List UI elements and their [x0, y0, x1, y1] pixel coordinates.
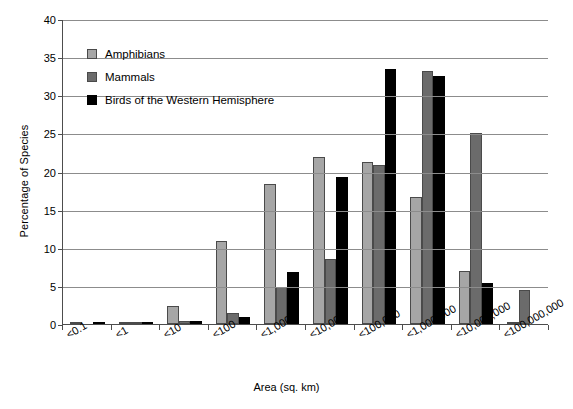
legend-swatch-icon [87, 95, 97, 105]
bar [362, 162, 374, 324]
bar [93, 322, 105, 324]
bar [142, 322, 154, 324]
y-axis-title: Percentage of Species [18, 71, 30, 291]
bar [130, 322, 142, 324]
legend-label: Birds of the Western Hemisphere [105, 94, 274, 106]
y-tick-label: 25 [6, 129, 56, 140]
x-tick-mark [548, 325, 549, 330]
legend-swatch-icon [87, 72, 97, 82]
y-tick-mark [58, 249, 62, 250]
y-tick-mark [58, 287, 62, 288]
bar [336, 177, 348, 324]
bar [190, 321, 202, 324]
x-axis-title: Area (sq. km) [0, 381, 573, 393]
x-tick-label: <1 [113, 324, 130, 341]
y-tick-label: 0 [6, 320, 56, 331]
gridline [63, 20, 548, 21]
gridline [63, 249, 548, 250]
y-tick-label: 30 [6, 91, 56, 102]
bar [313, 157, 325, 324]
y-tick-mark [58, 211, 62, 212]
bar [216, 241, 228, 324]
gridline [63, 287, 548, 288]
legend-swatch-icon [87, 49, 97, 59]
y-tick-label: 35 [6, 53, 56, 64]
y-tick-label: 10 [6, 244, 56, 255]
y-tick-mark [58, 58, 62, 59]
y-tick-label: 15 [6, 206, 56, 217]
bar [385, 69, 397, 324]
bar [459, 271, 471, 324]
x-tick-mark [111, 325, 112, 330]
bar [239, 317, 251, 324]
bar [373, 165, 385, 324]
bar [470, 133, 482, 324]
y-tick-mark [58, 96, 62, 97]
legend-label: Mammals [105, 71, 155, 83]
legend-item: Birds of the Western Hemisphere [87, 90, 274, 110]
x-tick-mark [354, 325, 355, 330]
y-tick-label: 20 [6, 168, 56, 179]
legend-item: Mammals [87, 67, 274, 87]
y-tick-label: 40 [6, 15, 56, 26]
y-tick-mark [58, 20, 62, 21]
bar-chart: Percentage of Species 0510152025303540 <… [0, 0, 573, 409]
legend-item: Amphibians [87, 44, 274, 64]
gridline [63, 211, 548, 212]
y-tick-label: 5 [6, 282, 56, 293]
y-tick-mark [58, 173, 62, 174]
gridline [63, 134, 548, 135]
gridline [63, 173, 548, 174]
legend-label: Amphibians [105, 48, 165, 60]
bar [264, 184, 276, 324]
chart-legend: AmphibiansMammalsBirds of the Western He… [87, 44, 274, 113]
bar [179, 321, 191, 324]
bar [410, 197, 422, 324]
y-tick-mark [58, 134, 62, 135]
